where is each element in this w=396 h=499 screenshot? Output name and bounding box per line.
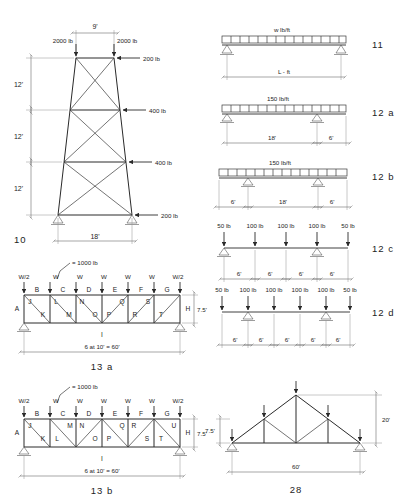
svg-text:C: C bbox=[61, 410, 66, 417]
svg-text:P: P bbox=[107, 435, 112, 442]
fig10-panel-h2: 12' bbox=[14, 133, 23, 140]
svg-text:6': 6' bbox=[336, 336, 341, 343]
svg-text:6': 6' bbox=[268, 270, 273, 277]
fig12d-load-labels: 50 lb 100 lb 100 lb 100 lb 100 lb 50 lb bbox=[215, 286, 357, 293]
fig10-lateral-4: 200 lb bbox=[161, 212, 178, 219]
fig11-span-label: L - ft bbox=[278, 68, 290, 75]
svg-text:B: B bbox=[35, 286, 40, 293]
fig13a-web-labels: J K L M N O P Q R S T bbox=[28, 298, 163, 318]
fig12a-dim-1: 18' bbox=[268, 134, 276, 141]
fig12d-number: 12 d bbox=[372, 307, 395, 318]
fig12b-number: 12 b bbox=[372, 171, 395, 182]
svg-text:R: R bbox=[132, 422, 137, 429]
fig10-top-width: 9' bbox=[92, 23, 97, 30]
fig13a-span: 6 at 10' = 60' bbox=[84, 343, 119, 350]
svg-text:F: F bbox=[139, 286, 143, 293]
svg-text:J: J bbox=[28, 298, 31, 305]
svg-text:T: T bbox=[159, 311, 163, 318]
svg-text:O: O bbox=[92, 435, 97, 442]
fig10-lateral-3: 400 lb bbox=[155, 159, 172, 166]
fig12b-load-label: 150 lb/ft bbox=[269, 159, 291, 166]
svg-text:G: G bbox=[164, 410, 169, 417]
svg-text:W: W bbox=[53, 397, 59, 404]
svg-text:100 lb: 100 lb bbox=[292, 286, 309, 293]
figure-28-truss: 20' 7.5' 60' 28 bbox=[200, 375, 396, 499]
fig12d-dims: 6' 6' 6' 6' 6' bbox=[218, 336, 354, 345]
svg-text:R: R bbox=[133, 311, 138, 318]
svg-text:D: D bbox=[87, 286, 92, 293]
fig28-number: 28 bbox=[290, 484, 303, 495]
fig10-panel-h1: 12' bbox=[14, 81, 23, 88]
svg-text:L: L bbox=[54, 298, 58, 305]
svg-text:W: W bbox=[149, 273, 155, 280]
fig12a-number: 12 a bbox=[372, 107, 395, 118]
fig28-rise: 20' bbox=[382, 416, 390, 423]
fig10-lateral-2: 400 lb bbox=[149, 107, 166, 114]
svg-text:Q: Q bbox=[119, 422, 124, 430]
svg-text:100 lb: 100 lb bbox=[318, 286, 335, 293]
svg-text:B: B bbox=[35, 410, 40, 417]
fig10-lateral-1: 200 lb bbox=[143, 55, 160, 62]
fig10-load-right: 2000 lb bbox=[117, 37, 138, 44]
svg-text:U: U bbox=[172, 422, 177, 429]
fig11-load-label: w lb/ft bbox=[273, 26, 290, 33]
fig10-load-left: 2000 lb bbox=[53, 37, 74, 44]
svg-text:6': 6' bbox=[311, 336, 316, 343]
fig12a-dim-2: 6' bbox=[329, 134, 334, 141]
svg-text:W/2: W/2 bbox=[172, 273, 184, 280]
svg-text:K: K bbox=[41, 311, 46, 318]
svg-text:50 lb: 50 lb bbox=[215, 286, 229, 293]
fig13b-note: = 1000 lb bbox=[72, 383, 98, 390]
svg-text:100 lb: 100 lb bbox=[309, 222, 326, 229]
svg-text:L: L bbox=[55, 435, 59, 442]
fig12b-dim-3: 6' bbox=[330, 198, 335, 205]
fig12a-load-label: 150 lb/ft bbox=[267, 95, 289, 102]
fig13a-bottom-chord-label: I bbox=[101, 331, 103, 338]
fig28-half-rise: 7.5' bbox=[205, 427, 215, 434]
svg-text:M: M bbox=[66, 311, 72, 318]
svg-text:W/2: W/2 bbox=[18, 273, 30, 280]
fig13a-number: 13 a bbox=[91, 361, 114, 372]
figure-12a-beam: 150 lb/ft 18' 6' 12 a bbox=[200, 88, 396, 160]
figure-10-tower: 9' 2000 lb 2000 lb 200 lb 400 lb 400 lb … bbox=[0, 0, 200, 250]
fig13a-height: 7.5' bbox=[197, 306, 207, 313]
svg-text:W: W bbox=[101, 273, 107, 280]
svg-text:O: O bbox=[92, 311, 97, 318]
fig12b-dim-1: 6' bbox=[231, 198, 236, 205]
svg-text:M: M bbox=[67, 422, 73, 429]
figure-11-beam: w lb/ft L - ft 11 bbox=[200, 18, 396, 93]
figure-sheet: 9' 2000 lb 2000 lb 200 lb 400 lb 400 lb … bbox=[0, 0, 396, 499]
svg-text:S: S bbox=[145, 435, 150, 442]
svg-text:K: K bbox=[41, 435, 46, 442]
fig10-panel-h3: 12' bbox=[14, 185, 23, 192]
fig13b-number: 13 b bbox=[91, 485, 114, 496]
svg-text:6': 6' bbox=[237, 270, 242, 277]
fig13b-bottom-chord-label: I bbox=[101, 455, 103, 462]
svg-text:6': 6' bbox=[299, 270, 304, 277]
svg-text:W: W bbox=[77, 273, 83, 280]
svg-text:W: W bbox=[101, 397, 107, 404]
svg-text:D: D bbox=[87, 410, 92, 417]
fig13a-panel-loads: W/2 W W W W W W/2 bbox=[18, 273, 184, 280]
svg-text:A: A bbox=[15, 305, 20, 312]
svg-text:Q: Q bbox=[119, 298, 124, 306]
svg-text:G: G bbox=[164, 286, 169, 293]
svg-text:F: F bbox=[139, 410, 143, 417]
svg-text:W/2: W/2 bbox=[172, 397, 184, 404]
fig10-number: 10 bbox=[14, 234, 27, 245]
fig13b-span: 6 at 10' = 60' bbox=[84, 467, 119, 474]
svg-text:N: N bbox=[80, 298, 85, 305]
svg-text:100 lb: 100 lb bbox=[240, 286, 257, 293]
svg-text:W: W bbox=[125, 397, 131, 404]
svg-text:W: W bbox=[53, 273, 59, 280]
svg-text:6': 6' bbox=[233, 336, 238, 343]
svg-text:50 lb: 50 lb bbox=[343, 286, 357, 293]
fig12b-dim-2: 18' bbox=[279, 198, 287, 205]
svg-text:W: W bbox=[125, 273, 131, 280]
fig28-span: 60' bbox=[292, 463, 300, 470]
fig13a-note: = 1000 lb bbox=[72, 259, 98, 266]
svg-text:6': 6' bbox=[285, 336, 290, 343]
svg-text:C: C bbox=[61, 286, 66, 293]
svg-text:50 lb: 50 lb bbox=[217, 222, 231, 229]
fig10-base-width: 18' bbox=[90, 233, 99, 240]
